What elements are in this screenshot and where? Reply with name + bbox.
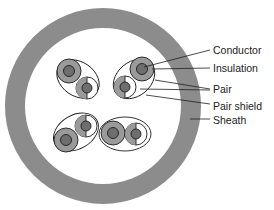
label-sheath: Sheath: [213, 115, 246, 126]
pair-bottom-right: [99, 117, 151, 151]
label-insulation: Insulation: [213, 63, 258, 74]
sheath-ring: [15, 18, 191, 194]
label-pair-shield: Pair shield: [213, 101, 262, 112]
pair-top-right: [105, 51, 162, 107]
label-pair: Pair: [213, 84, 232, 95]
leader-insulation: [152, 68, 210, 69]
pair-bottom-left: [47, 105, 106, 158]
pair-top-left: [49, 52, 106, 106]
label-conductor: Conductor: [213, 45, 261, 56]
